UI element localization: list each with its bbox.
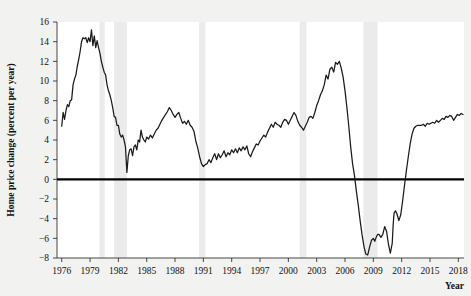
x-axis-tick-label: 1988 xyxy=(166,266,185,276)
x-axis-tick-label: 1982 xyxy=(109,266,128,276)
x-axis-tick-label: 1994 xyxy=(222,266,241,276)
y-axis-tick-label: −8 xyxy=(39,253,49,263)
x-axis-tick-label: 1991 xyxy=(194,266,213,276)
y-axis-tick-label: 16 xyxy=(40,17,50,27)
x-axis-tick-label: 2012 xyxy=(392,266,411,276)
x-axis-tick-label: 1997 xyxy=(251,266,270,276)
x-axis-tick-label: 2009 xyxy=(364,266,383,276)
y-axis-tick-label: −6 xyxy=(39,234,49,244)
x-axis-tick-label: 2003 xyxy=(307,266,326,276)
chart-figure: 1976197919821985198819911994199720002003… xyxy=(0,0,471,296)
x-axis-tick-label: 1979 xyxy=(81,266,100,276)
y-axis-tick-label: 0 xyxy=(44,175,49,185)
y-axis-tick-label: −2 xyxy=(39,194,49,204)
y-axis-title: Home price change (percent per year) xyxy=(6,63,17,216)
x-axis-tick-label: 2006 xyxy=(336,266,355,276)
y-axis-tick-label: 6 xyxy=(44,116,49,126)
y-axis-tick-label: 4 xyxy=(44,135,49,145)
y-axis-tick-label: 2 xyxy=(44,155,49,165)
x-axis-tick-label: 2000 xyxy=(279,266,298,276)
y-axis-tick-label: 12 xyxy=(40,57,50,67)
recession-band xyxy=(199,22,205,258)
recession-band xyxy=(363,22,377,258)
y-axis-tick-label: 8 xyxy=(44,96,49,106)
home-price-change-line-chart: 1976197919821985198819911994199720002003… xyxy=(0,0,471,296)
recession-band xyxy=(114,22,127,258)
x-axis-title: Year xyxy=(445,281,465,291)
y-axis-tick-label: 10 xyxy=(40,76,50,86)
x-axis-tick-label: 2015 xyxy=(421,266,440,276)
recession-band xyxy=(300,22,307,258)
x-axis-tick-label: 1976 xyxy=(52,266,71,276)
x-axis-tick-label: 2018 xyxy=(449,266,468,276)
x-axis-tick-label-group: 1976197919821985198819911994199720002003… xyxy=(52,266,468,276)
y-axis-tick-label: 14 xyxy=(40,37,50,47)
x-axis-tick-label: 1985 xyxy=(137,266,156,276)
y-axis-tick-label: −4 xyxy=(39,214,49,224)
